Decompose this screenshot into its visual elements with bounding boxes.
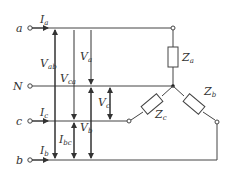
terminal-n-label: N [12, 80, 23, 93]
impedance-za [168, 30, 178, 86]
voltage-va-label: Va [80, 50, 92, 64]
impedance-za-label: Za [181, 51, 194, 65]
current-ibc-label: Ibc [58, 133, 72, 147]
current-ia-label: Ia [39, 13, 49, 27]
line-c [28, 119, 127, 123]
voltage-vc-label: Vc [98, 96, 110, 110]
line-b [28, 158, 217, 162]
line-a [28, 26, 175, 30]
current-ib-label: Ib [39, 144, 49, 158]
terminal-a-label: a [16, 22, 23, 35]
impedance-zb-label: Zb [203, 85, 217, 99]
current-ic-label: Ic [39, 106, 48, 120]
impedance-zc-label: Zc [154, 108, 167, 122]
terminal-c-label: c [16, 115, 22, 128]
line-n [28, 84, 175, 88]
terminal-b-label: b [16, 154, 23, 167]
circuit-diagram: a N c b Ia Ic Ib Vab Vca Va Vc Vb Ibc Za… [0, 0, 232, 176]
